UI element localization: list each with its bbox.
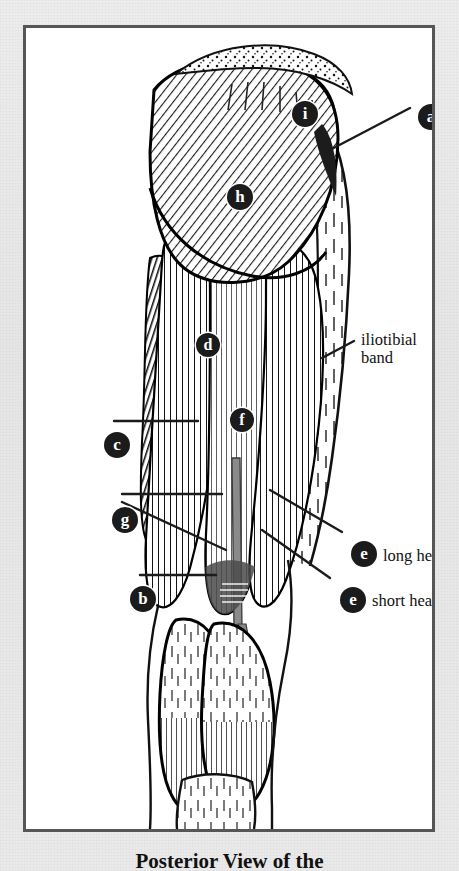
marker-i[interactable]: i bbox=[292, 101, 318, 127]
anatomy-illustration bbox=[26, 28, 432, 829]
marker-h[interactable]: h bbox=[227, 184, 253, 210]
marker-g[interactable]: g bbox=[112, 507, 138, 533]
marker-c[interactable]: c bbox=[104, 432, 130, 458]
see-page-note: see page 354 bbox=[346, 825, 435, 832]
marker-e-short-head[interactable]: e bbox=[340, 587, 366, 613]
label-long-head: long head bbox=[383, 547, 435, 565]
marker-b[interactable]: b bbox=[130, 586, 156, 612]
marker-f[interactable]: f bbox=[230, 408, 254, 432]
label-short-head: short head bbox=[372, 592, 435, 610]
marker-e-long-head[interactable]: e bbox=[351, 541, 377, 567]
marker-d[interactable]: d bbox=[196, 333, 220, 357]
label-iliotibial-band: iliotibialband bbox=[361, 331, 417, 368]
figure-caption: Posterior View of the bbox=[0, 849, 459, 871]
figure-frame: iliotibialband long head short head see … bbox=[23, 25, 435, 832]
